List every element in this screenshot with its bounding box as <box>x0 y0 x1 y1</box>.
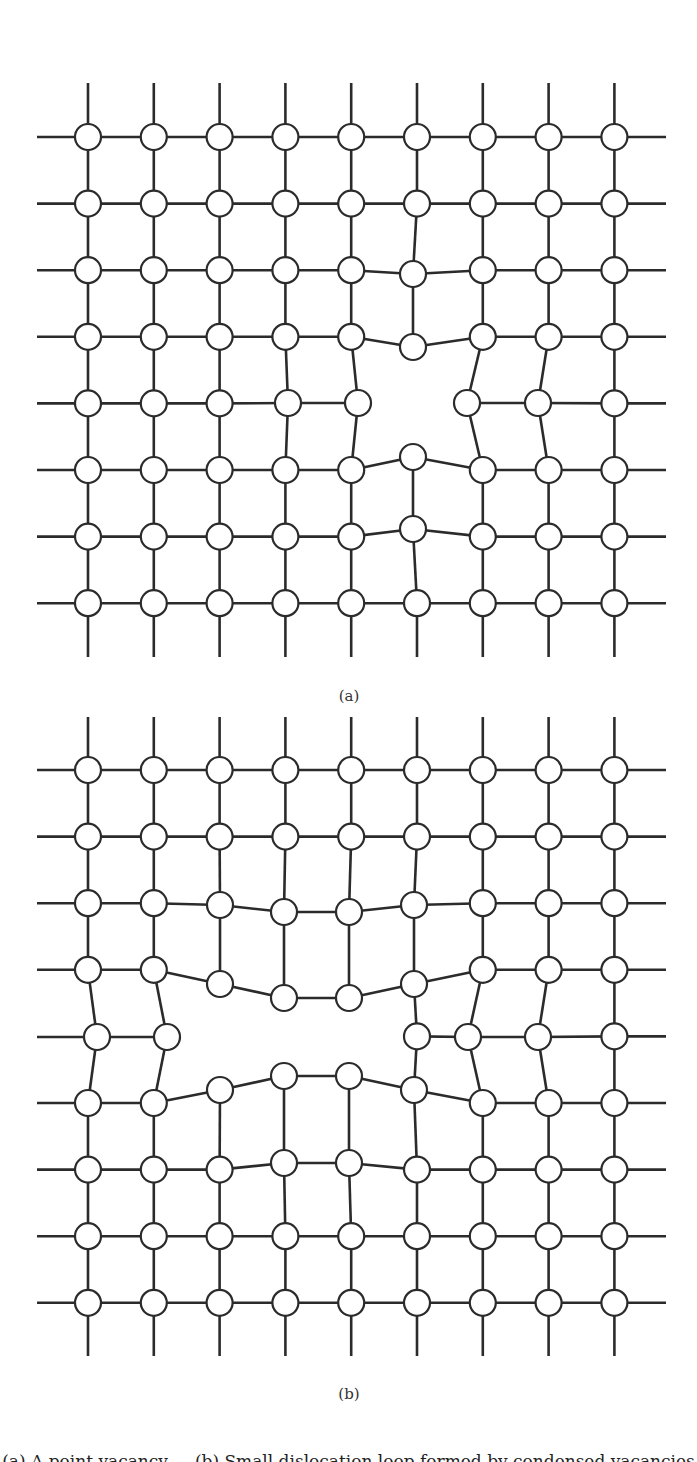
atom-node <box>404 824 430 850</box>
atom-node <box>536 757 562 783</box>
atom-node <box>207 1290 233 1316</box>
atom-node <box>75 890 101 916</box>
atom-node <box>271 899 297 925</box>
atom-node <box>207 1077 233 1103</box>
atom-node <box>536 457 562 483</box>
atom-node <box>536 124 562 150</box>
atom-node <box>404 757 430 783</box>
figure-caption: (a) A point vacancy ... (b) Small disloc… <box>0 1448 697 1462</box>
atom-node <box>75 1090 101 1116</box>
atom-node <box>404 1157 430 1183</box>
atom-node <box>141 1223 167 1249</box>
atom-node <box>272 1223 298 1249</box>
atom-node <box>536 1290 562 1316</box>
atom-node <box>141 191 167 217</box>
atom-node <box>404 1290 430 1316</box>
atom-node <box>338 324 364 350</box>
bonds <box>37 717 666 1356</box>
atom-node <box>207 524 233 550</box>
atom-node <box>338 1290 364 1316</box>
atom-node <box>525 1024 551 1050</box>
atom-node <box>470 957 496 983</box>
atom-node <box>338 457 364 483</box>
atom-node <box>536 890 562 916</box>
atom-node <box>470 191 496 217</box>
atom-node <box>75 957 101 983</box>
atom-node <box>601 1157 627 1183</box>
atom-node <box>338 524 364 550</box>
atom-node <box>272 191 298 217</box>
atom-node <box>275 390 301 416</box>
atom-node <box>601 1023 627 1049</box>
atom-node <box>536 324 562 350</box>
atom-node <box>141 957 167 983</box>
atom-node <box>401 1077 427 1103</box>
atom-node <box>75 1223 101 1249</box>
atom-node <box>141 590 167 616</box>
atom-node <box>207 191 233 217</box>
atom-node <box>601 191 627 217</box>
atom-node <box>470 1290 496 1316</box>
atom-node <box>345 390 371 416</box>
atom-node <box>272 1290 298 1316</box>
atom-node <box>141 757 167 783</box>
atom-node <box>338 1223 364 1249</box>
atom-node <box>601 390 627 416</box>
atom-node <box>536 257 562 283</box>
atom-node <box>470 457 496 483</box>
atom-node <box>470 124 496 150</box>
atom-node <box>75 757 101 783</box>
atom-node <box>336 985 362 1011</box>
atom-node <box>75 257 101 283</box>
bonds <box>37 83 666 657</box>
atom-node <box>141 524 167 550</box>
atom-node <box>601 1290 627 1316</box>
atom-node <box>154 1024 180 1050</box>
atom-node <box>470 257 496 283</box>
atom-node <box>525 390 551 416</box>
atom-node <box>400 261 426 287</box>
atom-node <box>141 1090 167 1116</box>
atom-node <box>272 324 298 350</box>
atom-node <box>455 1024 481 1050</box>
atom-node <box>601 824 627 850</box>
atom-node <box>536 524 562 550</box>
atom-node <box>75 524 101 550</box>
atom-node <box>75 590 101 616</box>
atom-node <box>404 1223 430 1249</box>
panel-b-label: (b) <box>338 1385 359 1403</box>
panel-a-vacancy-lattice <box>37 83 666 657</box>
atom-node <box>75 1157 101 1183</box>
atom-node <box>75 124 101 150</box>
atom-node <box>536 1090 562 1116</box>
atom-node <box>271 1150 297 1176</box>
atom-node <box>272 257 298 283</box>
atom-node <box>536 1157 562 1183</box>
atom-node <box>141 457 167 483</box>
atom-node <box>207 124 233 150</box>
atom-node <box>400 516 426 542</box>
atom-node <box>75 390 101 416</box>
atom-node <box>207 324 233 350</box>
atom-node <box>470 757 496 783</box>
atom-node <box>601 590 627 616</box>
atom-node <box>207 590 233 616</box>
atom-node <box>141 324 167 350</box>
atom-node <box>141 257 167 283</box>
atom-node <box>601 1090 627 1116</box>
atom-node <box>601 890 627 916</box>
atom-node <box>338 824 364 850</box>
atom-node <box>272 457 298 483</box>
atom-node <box>336 1063 362 1089</box>
atom-node <box>401 892 427 918</box>
atom-node <box>271 1063 297 1089</box>
atom-node <box>601 124 627 150</box>
atom-node <box>601 1223 627 1249</box>
panel-a-label: (a) <box>339 687 360 705</box>
atom-node <box>470 824 496 850</box>
atom-node <box>141 824 167 850</box>
atom-node <box>470 590 496 616</box>
atom-node <box>470 890 496 916</box>
atom-node <box>338 191 364 217</box>
atom-node <box>404 1023 430 1049</box>
